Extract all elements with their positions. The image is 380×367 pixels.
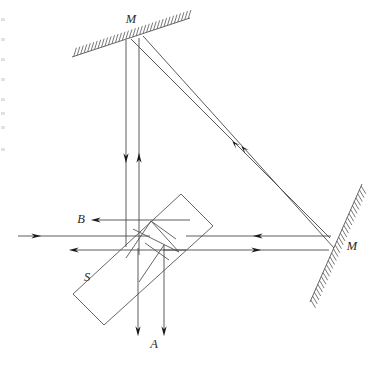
- top-mirror-hatch: [102, 39, 105, 48]
- beam-splitter-outline: [73, 194, 213, 325]
- top-mirror-hatch: [115, 34, 118, 43]
- scan-artifact-mark: [1, 112, 5, 115]
- top-mirror-hatch: [81, 45, 84, 54]
- label-output-a: A: [149, 337, 158, 351]
- right-mirror-hatch: [314, 292, 319, 300]
- beam-splitter-internal-ray: [151, 221, 176, 239]
- scan-artifact-mark: [1, 38, 5, 41]
- right-mirror-hatch: [359, 190, 364, 198]
- right-mirror-hatch: [333, 249, 338, 257]
- top-mirror-hatch: [154, 21, 157, 30]
- right-mirror-hatch: [346, 221, 351, 229]
- top-mirror-hatch: [171, 16, 174, 25]
- scan-artifact-mark: [1, 98, 5, 101]
- figure-labels-group: MMBAS: [77, 12, 358, 351]
- right-mirror-hatch: [344, 225, 349, 233]
- right-mirror-hatch: [320, 280, 325, 288]
- top-mirror-hatch: [181, 12, 184, 21]
- right-mirror-hatch: [351, 210, 356, 218]
- beam-splitter-group: [73, 194, 213, 325]
- top-mirror-hatch: [84, 44, 87, 53]
- right-mirror-hatch: [311, 300, 316, 308]
- top-mirror-hatch: [178, 13, 181, 22]
- right-mirror-hatch: [339, 237, 344, 245]
- right-mirror-hatch: [332, 253, 337, 261]
- top-mirror-hatch: [77, 47, 80, 56]
- optics-diagram-figure: MMBAS: [0, 0, 380, 367]
- right-mirror-hatch: [349, 214, 354, 222]
- right-mirror-hatch: [326, 265, 331, 273]
- right-mirror-hatch: [354, 202, 359, 210]
- scan-artifact-mark: [1, 58, 5, 61]
- ray-diagram-canvas: MMBAS: [0, 0, 380, 367]
- top-mirror-hatch: [112, 35, 115, 44]
- scan-artifact-mark: [1, 78, 5, 81]
- right-mirror-hatch: [325, 269, 330, 277]
- top-mirror-hatch: [95, 41, 98, 50]
- top-mirror-hatch: [129, 29, 132, 38]
- top-mirror-hatch: [161, 19, 164, 28]
- top-mirror-hatch: [88, 43, 91, 52]
- top-mirror-hatch: [108, 36, 111, 45]
- right-mirror-hatch: [321, 276, 326, 284]
- beam-splitter-internal-ray: [133, 229, 179, 252]
- label-mirror-top: M: [125, 12, 137, 26]
- diagonal-beam-outer: [143, 36, 334, 248]
- right-mirror-hatch: [328, 261, 333, 269]
- top-mirror-hatch: [122, 32, 125, 41]
- top-mirror-hatch: [150, 23, 153, 32]
- top-mirror-hatch: [126, 31, 129, 40]
- beam-splitter-internal-ray: [151, 221, 179, 252]
- right-mirror-hatch: [340, 233, 345, 241]
- right-mirror-hatch: [347, 217, 352, 225]
- right-mirror-hatch: [337, 241, 342, 249]
- right-mirror-hatch: [316, 288, 321, 296]
- right-mirror-hatch: [335, 245, 340, 253]
- diagonal-beam-inner: [131, 39, 330, 238]
- mirrors-group: [72, 10, 366, 308]
- top-mirror-hatch: [105, 37, 108, 46]
- top-mirror-hatch: [133, 28, 136, 37]
- right-mirror-hatch: [313, 296, 318, 304]
- top-mirror-hatch: [74, 48, 77, 57]
- top-mirror-hatch: [164, 18, 167, 27]
- beam-splitter-internal-ray: [139, 245, 164, 282]
- top-mirror-hatch: [174, 15, 177, 24]
- top-mirror-hatch: [119, 33, 122, 42]
- right-mirror-hatch: [361, 186, 366, 194]
- scan-artifact-mark: [1, 148, 5, 151]
- right-mirror-hatch: [342, 229, 347, 237]
- right-mirror-hatch: [352, 206, 357, 214]
- top-mirror-hatch: [98, 40, 101, 49]
- right-mirror-hatch: [358, 194, 363, 202]
- right-mirror-hatch: [323, 273, 328, 281]
- scan-artifact-mark: [1, 126, 5, 129]
- right-mirror-hatch: [330, 257, 335, 265]
- top-mirror-hatch: [143, 25, 146, 34]
- top-mirror-hatch: [140, 26, 143, 35]
- right-mirror-hatch: [318, 284, 323, 292]
- light-rays-group: [18, 36, 334, 331]
- right-mirror: [310, 184, 366, 308]
- label-beam-splitter: S: [84, 270, 91, 284]
- top-mirror-hatch: [167, 17, 170, 26]
- label-output-b: B: [77, 212, 85, 226]
- top-mirror-hatch: [185, 11, 188, 20]
- top-mirror-hatch: [188, 10, 191, 19]
- beam-splitter-internal-ray: [126, 221, 151, 258]
- top-mirror-hatch: [136, 27, 139, 36]
- label-mirror-right: M: [346, 239, 358, 253]
- top-mirror-hatch: [91, 42, 94, 51]
- top-mirror-hatch: [157, 20, 160, 29]
- ray-arrowheads-group: [31, 141, 262, 336]
- top-mirror-hatch: [147, 24, 150, 33]
- scan-artifact-mark: [1, 18, 5, 21]
- right-mirror-hatch: [356, 198, 361, 206]
